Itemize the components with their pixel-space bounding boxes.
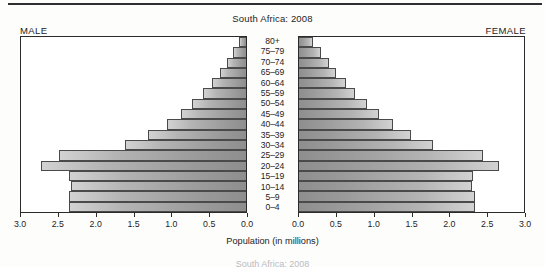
male-bar-rows bbox=[21, 37, 246, 212]
bar-row bbox=[299, 150, 524, 160]
axis-tick bbox=[449, 213, 450, 217]
female-bar-45-49 bbox=[299, 109, 379, 119]
bar-row bbox=[21, 119, 246, 129]
axis-tick-label: 2.0 bbox=[90, 219, 102, 229]
bar-row bbox=[21, 68, 246, 78]
axis-tick-label: 2.5 bbox=[52, 219, 64, 229]
female-bar-70-74 bbox=[299, 58, 329, 68]
axis-tick bbox=[247, 213, 248, 217]
male-bar-75-79 bbox=[233, 47, 246, 57]
bar-row bbox=[299, 99, 524, 109]
male-bar-80plus bbox=[239, 37, 246, 47]
bar-row bbox=[299, 140, 524, 150]
bar-row bbox=[299, 88, 524, 98]
axis-tick bbox=[298, 213, 299, 217]
axis-tick bbox=[336, 213, 337, 217]
age-group-label: 75–79 bbox=[247, 46, 298, 56]
female-bar-0-4 bbox=[299, 202, 475, 212]
bar-row bbox=[299, 68, 524, 78]
bar-row bbox=[21, 181, 246, 191]
female-bar-20-24 bbox=[299, 161, 499, 171]
bar-row bbox=[21, 202, 246, 212]
male-bar-30-34 bbox=[125, 140, 247, 150]
bar-row bbox=[299, 78, 524, 88]
age-group-label: 80+ bbox=[247, 36, 298, 46]
male-bar-45-49 bbox=[181, 109, 246, 119]
bar-row bbox=[299, 171, 524, 181]
axis-tick-label: 0.0 bbox=[292, 219, 304, 229]
axis-tick bbox=[96, 213, 97, 217]
axis-tick-label: 1.0 bbox=[368, 219, 380, 229]
male-side-label: MALE bbox=[20, 25, 47, 36]
age-group-label: 0–4 bbox=[247, 203, 298, 213]
bar-row bbox=[21, 161, 246, 171]
age-group-axis: 80+75–7970–7465–6960–6455–5950–5445–4940… bbox=[247, 36, 298, 213]
female-bar-40-44 bbox=[299, 119, 393, 129]
age-group-label: 45–49 bbox=[247, 109, 298, 119]
age-group-label: 30–34 bbox=[247, 140, 298, 150]
age-group-label: 5–9 bbox=[247, 192, 298, 202]
age-group-label: 50–54 bbox=[247, 98, 298, 108]
bar-row bbox=[21, 109, 246, 119]
male-bar-0-4 bbox=[69, 202, 246, 212]
axis-tick bbox=[374, 213, 375, 217]
female-bar-55-59 bbox=[299, 88, 355, 98]
bar-row bbox=[21, 191, 246, 201]
female-bar-25-29 bbox=[299, 150, 483, 160]
axis-tick-label: 1.5 bbox=[127, 219, 139, 229]
axis-tick bbox=[209, 213, 210, 217]
axis-tick bbox=[412, 213, 413, 217]
bar-row bbox=[299, 191, 524, 201]
chart-title: South Africa: 2008 bbox=[0, 13, 545, 24]
axis-tick bbox=[171, 213, 172, 217]
axis-tick-label: 2.5 bbox=[481, 219, 493, 229]
male-bar-20-24 bbox=[41, 161, 246, 171]
female-bar-15-19 bbox=[299, 171, 473, 181]
bar-row bbox=[299, 181, 524, 191]
female-bar-65-69 bbox=[299, 68, 336, 78]
bar-row bbox=[21, 150, 246, 160]
age-group-label: 10–14 bbox=[247, 182, 298, 192]
male-bar-50-54 bbox=[192, 99, 246, 109]
axis-tick bbox=[134, 213, 135, 217]
axis-tick-label: 1.0 bbox=[165, 219, 177, 229]
bar-row bbox=[299, 119, 524, 129]
bar-row bbox=[299, 47, 524, 57]
bar-row bbox=[299, 109, 524, 119]
x-axis-title: Population (in millions) bbox=[0, 236, 545, 246]
bar-row bbox=[21, 130, 246, 140]
age-group-label: 15–19 bbox=[247, 171, 298, 181]
bar-row bbox=[21, 37, 246, 47]
female-bar-80plus bbox=[299, 37, 313, 47]
axis-tick-label: 0.0 bbox=[241, 219, 253, 229]
population-pyramid-figure: South Africa: 2008 MALE FEMALE 80+75–797… bbox=[0, 0, 545, 267]
bar-row bbox=[299, 202, 524, 212]
bar-row bbox=[21, 47, 246, 57]
axis-tick-label: 0.5 bbox=[330, 219, 342, 229]
bar-row bbox=[299, 161, 524, 171]
female-side-label: FEMALE bbox=[486, 25, 526, 36]
axis-tick-label: 1.5 bbox=[405, 219, 417, 229]
male-bar-15-19 bbox=[69, 171, 246, 181]
axis-tick-label: 3.0 bbox=[519, 219, 531, 229]
male-x-axis: 3.02.52.01.51.00.50.0 bbox=[20, 213, 247, 233]
age-group-label: 25–29 bbox=[247, 150, 298, 160]
male-bar-35-39 bbox=[148, 130, 246, 140]
male-bar-25-29 bbox=[59, 150, 247, 160]
bar-row bbox=[21, 78, 246, 88]
male-bar-65-69 bbox=[220, 68, 246, 78]
bar-row bbox=[21, 140, 246, 150]
age-group-label: 20–24 bbox=[247, 161, 298, 171]
female-bar-5-9 bbox=[299, 191, 475, 201]
bar-row bbox=[21, 99, 246, 109]
male-bar-70-74 bbox=[227, 58, 246, 68]
bar-row bbox=[21, 58, 246, 68]
axis-tick-label: 3.0 bbox=[14, 219, 26, 229]
axis-tick-label: 2.0 bbox=[443, 219, 455, 229]
male-bar-60-64 bbox=[212, 78, 246, 88]
male-bar-40-44 bbox=[167, 119, 246, 129]
age-group-label: 60–64 bbox=[247, 78, 298, 88]
age-group-label: 35–39 bbox=[247, 130, 298, 140]
axis-tick-label: 0.5 bbox=[203, 219, 215, 229]
bar-row bbox=[21, 171, 246, 181]
